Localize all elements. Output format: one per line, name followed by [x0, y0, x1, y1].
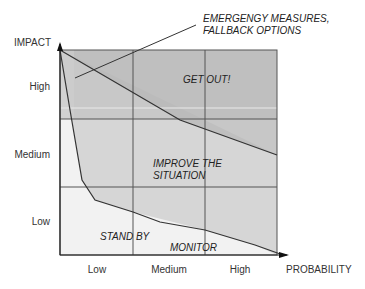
y-level-low: Low [32, 216, 51, 227]
annotation-line-1: EMERGENGY MEASURES, [203, 13, 330, 24]
y-axis-arrow-icon [57, 42, 63, 51]
x-level-high: High [230, 264, 251, 275]
x-axis-arrow-icon [279, 252, 289, 258]
x-axis-title: PROBABILITY [286, 264, 352, 275]
x-level-low: Low [88, 264, 107, 275]
risk-matrix-diagram: IMPACT PROBABILITY High Medium Low Low M… [0, 0, 365, 289]
x-level-medium: Medium [151, 264, 187, 275]
zone-label-get-out: GET OUT! [183, 74, 230, 85]
y-level-high: High [29, 81, 50, 92]
zone-label-stand-by: STAND BY [100, 231, 151, 242]
zone-label-improve-2: SITUATION [153, 170, 206, 181]
zone-label-monitor: MONITOR [170, 242, 217, 253]
zone-label-improve-1: IMPROVE THE [153, 158, 222, 169]
annotation-line-2: FALLBACK OPTIONS [203, 25, 302, 36]
y-axis-title: IMPACT [14, 37, 51, 48]
y-level-medium: Medium [14, 149, 50, 160]
